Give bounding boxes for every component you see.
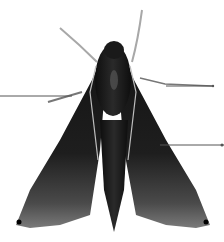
- antenna-right: [132, 10, 142, 62]
- wingtip-spot-left: [17, 220, 22, 225]
- moth-illustration: [0, 0, 224, 242]
- leader-dot-right-lower: [221, 144, 224, 147]
- leg-right: [140, 78, 212, 86]
- leg-left: [48, 92, 82, 102]
- thorax-highlight: [110, 70, 118, 90]
- wingtip-spot-right: [204, 220, 209, 225]
- antenna-left: [60, 28, 97, 62]
- leader-dot-right-upper: [212, 85, 214, 87]
- moth-figure: [0, 0, 224, 242]
- head: [104, 41, 124, 59]
- abdomen: [100, 120, 128, 232]
